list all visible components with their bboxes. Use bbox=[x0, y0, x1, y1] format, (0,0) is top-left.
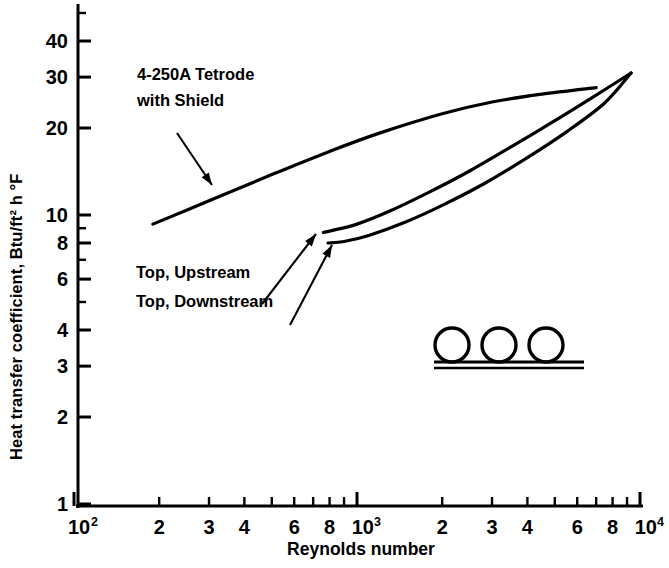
annotation-tetrode-arrowhead-icon bbox=[202, 172, 212, 185]
y-axis-ticks bbox=[78, 13, 91, 504]
x-tick-exponent-1000: 3 bbox=[374, 515, 381, 529]
annotation-downstream-arrowhead-icon bbox=[323, 245, 333, 258]
svg-text:4: 4 bbox=[522, 516, 534, 538]
curve-top-upstream bbox=[323, 73, 631, 232]
x-tick-label-10000: 104 bbox=[635, 515, 664, 538]
y-tick-label-20: 20 bbox=[46, 117, 68, 139]
x-axis-ticks bbox=[74, 492, 640, 506]
x-tick-label-100: 102 bbox=[68, 515, 98, 538]
figure-heat-transfer-vs-reynolds: Heat transfer coefficient, Btu/ft² h °F … bbox=[0, 0, 669, 568]
x-tick-label-300: 3 bbox=[203, 516, 214, 538]
svg-text:6: 6 bbox=[572, 516, 583, 538]
annotation-upstream-line-0: Top, Upstream bbox=[136, 263, 250, 281]
chart-canvas: Heat transfer coefficient, Btu/ft² h °F … bbox=[0, 0, 669, 568]
inset-diagram-three-tubes bbox=[434, 328, 584, 368]
x-tick-exponent-100: 2 bbox=[91, 515, 98, 529]
y-tick-label-10: 10 bbox=[46, 204, 68, 226]
y-axis-tick-labels: 12346810203040 bbox=[46, 30, 69, 515]
y-tick-label-2: 2 bbox=[57, 406, 68, 428]
curve-annotations: 4-250A Tetrodewith ShieldTop, UpstreamTo… bbox=[136, 65, 332, 325]
inset-tube-circle-3 bbox=[529, 328, 563, 362]
svg-text:4: 4 bbox=[239, 516, 251, 538]
y-axis-title: Heat transfer coefficient, Btu/ft² h °F bbox=[7, 174, 25, 460]
svg-text:10: 10 bbox=[635, 516, 657, 538]
y-tick-label-30: 30 bbox=[46, 66, 68, 88]
x-tick-label-400: 4 bbox=[239, 516, 251, 538]
x-tick-label-200: 2 bbox=[154, 516, 165, 538]
x-tick-label-600: 6 bbox=[289, 516, 300, 538]
svg-text:6: 6 bbox=[289, 516, 300, 538]
x-tick-label-4000: 4 bbox=[522, 516, 534, 538]
x-axis-title: Reynolds number bbox=[287, 539, 435, 559]
svg-text:8: 8 bbox=[607, 516, 618, 538]
y-tick-label-4: 4 bbox=[57, 319, 69, 341]
y-tick-label-6: 6 bbox=[57, 268, 68, 290]
x-tick-label-8000: 8 bbox=[607, 516, 618, 538]
x-tick-exponent-10000: 4 bbox=[657, 515, 664, 529]
svg-text:8: 8 bbox=[324, 516, 335, 538]
data-curves bbox=[153, 73, 631, 243]
svg-text:3: 3 bbox=[486, 516, 497, 538]
x-tick-label-1000: 103 bbox=[352, 515, 381, 538]
annotation-tetrode: 4-250A Tetrodewith Shield bbox=[136, 65, 254, 185]
x-tick-label-2000: 2 bbox=[437, 516, 448, 538]
annotation-tetrode-line-0: 4-250A Tetrode bbox=[137, 65, 254, 83]
annotation-downstream: Top, Downstream bbox=[136, 245, 332, 325]
y-tick-label-8: 8 bbox=[57, 232, 68, 254]
svg-text:2: 2 bbox=[437, 516, 448, 538]
inset-tube-circle-1 bbox=[435, 328, 469, 362]
y-tick-label-3: 3 bbox=[57, 355, 68, 377]
y-tick-label-40: 40 bbox=[46, 30, 68, 52]
annotation-downstream-line-0: Top, Downstream bbox=[136, 292, 273, 310]
x-tick-label-800: 8 bbox=[324, 516, 335, 538]
annotation-tetrode-line-1: with Shield bbox=[136, 91, 224, 109]
svg-text:2: 2 bbox=[154, 516, 165, 538]
y-tick-label-1: 1 bbox=[57, 493, 68, 515]
inset-tube-circle-2 bbox=[482, 328, 516, 362]
annotation-downstream-leader-line bbox=[290, 245, 332, 325]
x-axis-tick-labels: 1022346810323468104 bbox=[68, 515, 664, 538]
svg-text:3: 3 bbox=[203, 516, 214, 538]
x-tick-label-6000: 6 bbox=[572, 516, 583, 538]
svg-text:10: 10 bbox=[68, 516, 90, 538]
x-tick-label-3000: 3 bbox=[486, 516, 497, 538]
svg-text:10: 10 bbox=[352, 516, 374, 538]
